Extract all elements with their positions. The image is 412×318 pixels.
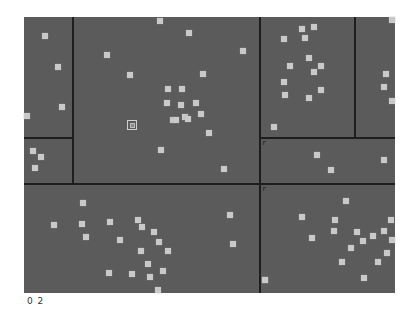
map-canvas[interactable] — [24, 17, 395, 293]
region-corner-marker: r — [262, 140, 266, 147]
data-point[interactable] — [314, 152, 320, 158]
data-point[interactable] — [311, 69, 317, 75]
data-point[interactable] — [370, 233, 376, 239]
data-point[interactable] — [309, 235, 315, 241]
partition-line-vertical — [354, 17, 356, 138]
data-point[interactable] — [306, 95, 312, 101]
data-point[interactable] — [287, 63, 293, 69]
data-point[interactable] — [179, 86, 185, 92]
data-point[interactable] — [354, 229, 360, 235]
data-point[interactable] — [193, 100, 199, 106]
data-point[interactable] — [271, 124, 277, 130]
partition-line-vertical — [72, 17, 74, 184]
data-point[interactable] — [160, 268, 166, 274]
selected-point-marker[interactable] — [127, 120, 137, 130]
data-point[interactable] — [389, 17, 395, 23]
data-point[interactable] — [332, 217, 338, 223]
data-point[interactable] — [55, 64, 61, 70]
data-point[interactable] — [104, 52, 110, 58]
partition-line-vertical — [259, 17, 261, 293]
data-point[interactable] — [381, 228, 387, 234]
data-point[interactable] — [389, 98, 395, 104]
data-point[interactable] — [299, 26, 305, 32]
data-point[interactable] — [155, 287, 161, 293]
data-point[interactable] — [117, 237, 123, 243]
data-point[interactable] — [388, 217, 394, 223]
data-point[interactable] — [151, 229, 157, 235]
data-point[interactable] — [306, 55, 312, 61]
data-point[interactable] — [158, 147, 164, 153]
data-point[interactable] — [318, 87, 324, 93]
level-label: 0 2 — [27, 296, 44, 306]
data-point[interactable] — [107, 219, 113, 225]
data-point[interactable] — [348, 245, 354, 251]
data-point[interactable] — [79, 221, 85, 227]
data-point[interactable] — [227, 212, 233, 218]
data-point[interactable] — [339, 259, 345, 265]
partition-line-horizontal — [24, 137, 73, 139]
data-point[interactable] — [139, 224, 145, 230]
data-point[interactable] — [129, 271, 135, 277]
data-point[interactable] — [165, 86, 171, 92]
data-point[interactable] — [318, 63, 324, 69]
data-point[interactable] — [281, 79, 287, 85]
data-point[interactable] — [173, 117, 179, 123]
data-point[interactable] — [185, 116, 191, 122]
data-point[interactable] — [230, 241, 236, 247]
data-point[interactable] — [164, 100, 170, 106]
data-point[interactable] — [262, 277, 268, 283]
data-point[interactable] — [51, 222, 57, 228]
data-point[interactable] — [240, 48, 246, 54]
data-point[interactable] — [331, 228, 337, 234]
partition-line-horizontal — [24, 183, 395, 185]
data-point[interactable] — [375, 259, 381, 265]
data-point[interactable] — [156, 239, 162, 245]
data-point[interactable] — [186, 30, 192, 36]
data-point[interactable] — [147, 274, 153, 280]
data-point[interactable] — [157, 18, 163, 24]
data-point[interactable] — [83, 234, 89, 240]
data-point[interactable] — [360, 238, 366, 244]
data-point[interactable] — [361, 275, 367, 281]
partition-line-horizontal — [260, 137, 395, 139]
data-point[interactable] — [221, 166, 227, 172]
data-point[interactable] — [381, 157, 387, 163]
data-point[interactable] — [302, 35, 308, 41]
data-point[interactable] — [30, 148, 36, 154]
data-point[interactable] — [24, 113, 30, 119]
data-point[interactable] — [282, 92, 288, 98]
data-point[interactable] — [80, 200, 86, 206]
data-point[interactable] — [59, 104, 65, 110]
data-point[interactable] — [381, 84, 387, 90]
data-point[interactable] — [198, 111, 204, 117]
data-point[interactable] — [384, 250, 390, 256]
data-point[interactable] — [106, 270, 112, 276]
data-point[interactable] — [178, 102, 184, 108]
data-point[interactable] — [343, 198, 349, 204]
data-point[interactable] — [299, 214, 305, 220]
data-point[interactable] — [311, 24, 317, 30]
data-point[interactable] — [138, 248, 144, 254]
data-point[interactable] — [145, 261, 151, 267]
data-point[interactable] — [281, 36, 287, 42]
region-corner-marker: r — [262, 186, 266, 193]
data-point[interactable] — [38, 154, 44, 160]
data-point[interactable] — [127, 72, 133, 78]
data-point[interactable] — [389, 237, 395, 243]
data-point[interactable] — [383, 71, 389, 77]
data-point[interactable] — [32, 165, 38, 171]
data-point[interactable] — [200, 71, 206, 77]
data-point[interactable] — [165, 248, 171, 254]
data-point[interactable] — [135, 217, 141, 223]
data-point[interactable] — [206, 130, 212, 136]
data-point[interactable] — [42, 33, 48, 39]
data-point[interactable] — [328, 167, 334, 173]
